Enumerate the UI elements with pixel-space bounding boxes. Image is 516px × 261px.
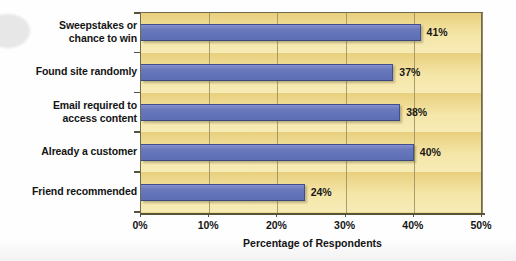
- category-label-0: Sweepstakes orchance to win: [6, 19, 137, 44]
- category-axis-labels: Sweepstakes orchance to winFound site ra…: [6, 12, 137, 214]
- category-label-line: Friend recommended: [6, 185, 137, 198]
- bar-value-label-2: 38%: [406, 106, 427, 118]
- bar-2: [141, 104, 400, 121]
- x-axis-title: Percentage of Respondents: [140, 237, 485, 249]
- bar-value-label-1: 37%: [399, 66, 420, 78]
- bar-value-label-0: 41%: [427, 26, 448, 38]
- x-tick-label-0: 0%: [132, 219, 147, 231]
- bar-3: [141, 144, 414, 161]
- x-axis-line: [140, 213, 485, 215]
- x-tick-50: [481, 213, 482, 217]
- x-tick-30: [345, 213, 346, 217]
- category-label-line: Sweepstakes or: [6, 19, 137, 32]
- x-tick-label-50: 50%: [470, 219, 491, 231]
- y-tick-5: [134, 211, 140, 213]
- category-label-3: Already a customer: [6, 145, 137, 158]
- x-tick-label-20: 20%: [266, 219, 287, 231]
- category-label-line: Email required to: [6, 99, 137, 112]
- x-tick-label-40: 40%: [402, 219, 423, 231]
- plot-area: 41%37%38%40%24%: [140, 12, 483, 214]
- category-label-line: Found site randomly: [6, 65, 137, 78]
- y-tick-2: [134, 92, 140, 94]
- bar-4: [141, 184, 305, 201]
- y-tick-3: [134, 131, 140, 133]
- y-tick-0: [134, 12, 140, 14]
- y-tick-1: [134, 52, 140, 54]
- gridline-50: [482, 13, 483, 213]
- x-tick-0: [140, 213, 141, 217]
- category-label-4: Friend recommended: [6, 185, 137, 198]
- category-label-line: chance to win: [6, 32, 137, 45]
- y-tick-4: [134, 171, 140, 173]
- x-tick-20: [276, 213, 277, 217]
- bar-0: [141, 24, 421, 41]
- bar-value-label-3: 40%: [420, 146, 441, 158]
- x-tick-label-10: 10%: [198, 219, 219, 231]
- x-tick-40: [413, 213, 414, 217]
- bar-chart-figure: Sweepstakes orchance to winFound site ra…: [0, 0, 516, 261]
- x-tick-10: [208, 213, 209, 217]
- bar-1: [141, 64, 393, 81]
- x-tick-label-30: 30%: [334, 219, 355, 231]
- category-label-line: access content: [6, 112, 137, 125]
- category-label-2: Email required toaccess content: [6, 99, 137, 124]
- category-label-1: Found site randomly: [6, 65, 137, 78]
- bar-value-label-4: 24%: [311, 186, 332, 198]
- category-label-line: Already a customer: [6, 145, 137, 158]
